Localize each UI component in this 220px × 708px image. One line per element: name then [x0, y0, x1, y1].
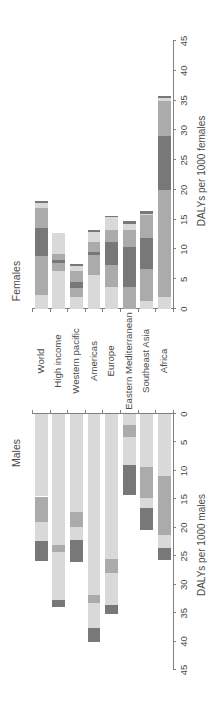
- females-bar-segment-dark: [158, 136, 171, 190]
- category-label: High income: [54, 334, 64, 387]
- males-bar-segment-dark: [105, 605, 118, 615]
- males-tick-label: 35: [179, 608, 189, 619]
- males-bar-segment-light: [70, 527, 83, 540]
- females-tick-label: 30: [179, 125, 189, 136]
- females-category-tick: [50, 308, 51, 312]
- males-value-tick: [173, 498, 176, 499]
- females-value-tick: [173, 70, 176, 71]
- females-bar-segment-medium: [140, 215, 153, 239]
- category-label: Americas: [89, 341, 99, 381]
- females-value-tick: [173, 308, 176, 309]
- males-tick-label: 15: [179, 494, 189, 505]
- females-value-tick: [173, 100, 176, 101]
- females-category-tick: [155, 308, 156, 312]
- females-bar-segment-light: [88, 232, 101, 242]
- males-bar-segment-medium: [158, 476, 171, 535]
- females-bar-segment-medium: [52, 263, 65, 272]
- males-category-tick: [50, 410, 51, 414]
- males-panel-title: Males: [11, 439, 22, 467]
- females-bar-segment-light: [52, 271, 65, 309]
- females-bar-segment-dark: [123, 247, 136, 286]
- females-tick-label: 20: [179, 185, 189, 196]
- females-category-tick: [120, 308, 121, 312]
- males-value-tick: [173, 641, 176, 642]
- males-bar-segment-light: [52, 414, 65, 545]
- females-bar-segment-dark: [88, 252, 101, 255]
- males-tick-label: 25: [179, 551, 189, 562]
- males-tick-label: 5: [179, 440, 189, 445]
- males-bar-segment-light: [105, 414, 118, 559]
- females-bar-segment-light: [140, 214, 153, 215]
- females-bar-segment-medium: [52, 254, 65, 260]
- males-value-tick: [173, 441, 176, 442]
- females-tick-label: 5: [179, 277, 189, 282]
- females-value-tick: [173, 248, 176, 249]
- females-bar-segment-dark: [70, 282, 83, 289]
- males-bar-segment-dark: [35, 541, 48, 561]
- females-bar-segment-light: [35, 295, 48, 309]
- females-bar-segment-light: [35, 203, 48, 208]
- males-tick-label: 30: [179, 579, 189, 590]
- females-bar-segment-light: [88, 275, 101, 309]
- males-bar-segment-medium: [70, 512, 83, 527]
- males-category-tick: [155, 410, 156, 414]
- males-category-tick: [67, 410, 68, 414]
- males-category-tick: [85, 410, 86, 414]
- females-value-tick: [173, 219, 176, 220]
- females-bar-segment-medium: [35, 256, 48, 295]
- males-bar-segment-light: [140, 414, 153, 467]
- females-bar-segment-light: [158, 98, 171, 101]
- females-bar-segment-dark: [140, 238, 153, 268]
- females-bar-segment-medium: [123, 230, 136, 247]
- females-category-tick: [32, 308, 33, 312]
- category-label: Southeast Asia: [142, 329, 152, 393]
- males-bar-segment-light: [35, 414, 48, 496]
- males-value-tick: [173, 413, 176, 414]
- males-bar-segment-dark: [70, 540, 83, 563]
- males-category-tick: [120, 410, 121, 414]
- females-tick-label: 45: [179, 36, 189, 47]
- males-bar-segment-dark: [158, 548, 171, 560]
- females-panel-title: Females: [11, 261, 22, 301]
- males-tick-label: 0: [179, 411, 189, 416]
- females-bar-segment-medium: [35, 208, 48, 228]
- females-value-tick: [173, 40, 176, 41]
- category-label: Europe: [106, 346, 116, 377]
- males-bar-segment-light: [123, 437, 136, 465]
- females-bar-segment-dark: [105, 216, 118, 217]
- males-bar-segment-light: [123, 414, 136, 425]
- males-category-tick: [138, 410, 139, 414]
- females-bar-segment-dark: [105, 242, 118, 265]
- males-tick-label: 20: [179, 522, 189, 533]
- males-bar-segment-light: [88, 414, 101, 595]
- females-value-tick: [173, 129, 176, 130]
- females-bar-segment-medium: [70, 272, 83, 282]
- dalys-chart-figure: Females Males DALYs per 1000 females DAL…: [0, 0, 220, 708]
- males-category-tick: [102, 410, 103, 414]
- females-bar-segment-light: [105, 287, 118, 309]
- males-bar-segment-dark: [140, 508, 153, 530]
- females-bar-segment-medium: [88, 242, 101, 252]
- males-value-tick: [173, 555, 176, 556]
- females-value-axis-line: [173, 41, 174, 309]
- category-label: World: [36, 349, 46, 374]
- females-bar-segment-dark: [88, 230, 101, 232]
- females-bar-segment-light: [52, 233, 65, 254]
- females-value-tick: [173, 278, 176, 279]
- females-bar-segment-dark: [52, 260, 65, 262]
- females-bar-segment-light: [105, 217, 118, 230]
- females-bar-segment-dark: [70, 264, 83, 266]
- females-tick-label: 0: [179, 306, 189, 311]
- males-value-tick: [173, 470, 176, 471]
- category-label: Africa: [159, 349, 169, 374]
- males-tick-label: 40: [179, 636, 189, 647]
- males-value-tick: [173, 612, 176, 613]
- males-bar-segment-light: [52, 552, 65, 600]
- females-bar-segment-light: [140, 301, 153, 309]
- category-label: Western pacific: [71, 328, 81, 393]
- females-tick-label: 15: [179, 214, 189, 225]
- males-value-axis-line: [173, 414, 174, 670]
- males-bar-segment-medium: [105, 559, 118, 573]
- males-bar-segment-light: [105, 573, 118, 604]
- females-tick-label: 10: [179, 244, 189, 255]
